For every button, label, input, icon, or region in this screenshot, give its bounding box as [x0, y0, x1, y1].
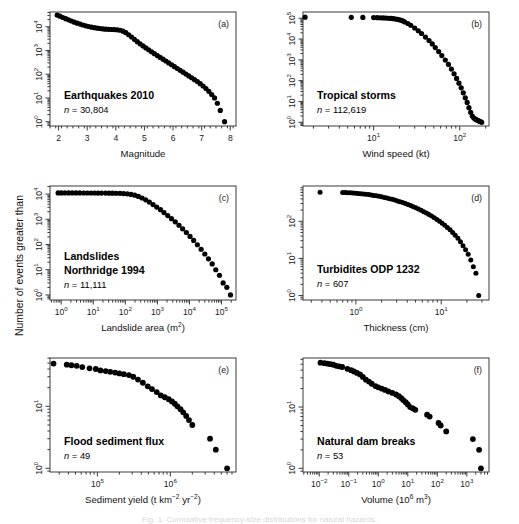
data-point	[132, 193, 137, 198]
data-point	[180, 409, 186, 415]
data-point	[366, 379, 372, 385]
data-point	[351, 369, 357, 375]
x-axis-title: Volume (106 m3)	[361, 493, 431, 505]
panel-c: 100101102103104100101102103104105Landsli…	[0, 0, 519, 524]
x-tick-label: 101	[367, 131, 381, 143]
data-point	[349, 15, 354, 20]
data-point	[458, 239, 463, 244]
data-point	[199, 247, 204, 252]
data-point	[143, 45, 148, 50]
data-point	[434, 217, 439, 222]
panel-annotation-count: n = 607	[317, 278, 349, 289]
data-point	[207, 436, 213, 442]
data-point	[348, 190, 353, 195]
y-tick-label: 104	[32, 20, 44, 34]
data-point	[195, 242, 200, 247]
data-point	[218, 108, 223, 113]
data-point	[387, 196, 392, 201]
data-point	[109, 27, 114, 32]
y-tick-label: 104	[32, 187, 44, 201]
data-point	[399, 18, 404, 23]
data-point	[330, 362, 336, 368]
data-point	[206, 89, 211, 94]
data-point	[69, 18, 74, 23]
data-point	[88, 190, 93, 195]
data-point	[429, 214, 434, 219]
data-point	[410, 406, 416, 412]
panel-canvas: 100101102103104100101102103104105Landsli…	[0, 0, 519, 524]
data-point	[81, 190, 86, 195]
data-point	[117, 191, 122, 196]
data-point	[212, 95, 217, 100]
data-point	[377, 194, 382, 199]
data-point	[465, 100, 470, 105]
y-tick-label: 103	[285, 53, 297, 67]
data-point	[162, 394, 168, 400]
panel-e: 100101105106Sediment yield (t km−2 yr−2)…	[0, 0, 519, 524]
panel-canvas: 1001011021031042345678Magnitude(a)Earthq…	[0, 0, 519, 524]
panel-letter: (e)	[218, 365, 229, 375]
data-point	[139, 195, 144, 200]
data-point	[302, 15, 307, 20]
plot-frame	[50, 358, 236, 472]
data-point	[183, 413, 189, 419]
data-point	[169, 62, 174, 67]
data-point	[55, 13, 60, 18]
panel-annotation-count: n = 53	[317, 450, 343, 461]
data-point	[390, 197, 395, 202]
data-point	[412, 407, 418, 413]
data-point	[466, 105, 471, 110]
data-point	[51, 361, 57, 367]
data-point	[474, 117, 479, 122]
panel-f: 10010110−210−1100101102103Volume (106 m3…	[0, 0, 519, 524]
data-point	[379, 194, 384, 199]
data-point	[405, 21, 410, 26]
data-point	[473, 271, 478, 276]
data-point	[183, 71, 188, 76]
data-point	[446, 62, 451, 67]
data-point	[396, 393, 402, 399]
data-point	[116, 371, 122, 377]
data-point	[426, 38, 431, 43]
x-tick-label: 10−1	[340, 477, 357, 489]
data-points	[55, 13, 228, 125]
data-point	[412, 25, 417, 30]
data-point	[213, 447, 219, 453]
data-point	[140, 380, 146, 386]
data-point	[363, 377, 369, 383]
x-tick-label: 104	[183, 305, 197, 317]
data-point	[384, 15, 389, 20]
data-point	[77, 190, 82, 195]
data-point	[371, 15, 376, 20]
data-point	[340, 190, 345, 195]
data-point	[115, 27, 120, 32]
data-point	[95, 26, 100, 31]
data-point	[178, 68, 183, 73]
x-tick-label: 7	[199, 133, 204, 143]
data-point	[93, 366, 99, 372]
data-point	[416, 207, 421, 212]
data-point	[476, 447, 482, 453]
x-axis-title: Magnitude	[121, 148, 166, 159]
panel-annotation-title: Turbidites ODP 1232	[317, 263, 420, 275]
data-point	[436, 420, 442, 426]
data-point	[89, 25, 94, 30]
y-tick-label: 100	[285, 115, 297, 129]
figure-panel-grid: Number of events greater than 1001011021…	[0, 0, 519, 524]
panel-annotation-title: Flood sediment flux	[64, 435, 164, 447]
data-point	[92, 25, 97, 30]
panel-letter: (a)	[218, 19, 229, 29]
data-point	[213, 267, 218, 272]
panel-letter: (f)	[474, 365, 482, 375]
x-tick-label: 10−2	[311, 477, 328, 489]
data-point	[393, 16, 398, 21]
data-point	[386, 16, 391, 21]
data-point	[56, 190, 61, 195]
panel-annotation-title: Natural dam breaks	[317, 435, 415, 447]
panel-letter: (b)	[471, 19, 482, 29]
data-point	[443, 429, 449, 435]
data-point	[154, 389, 160, 395]
data-point	[158, 207, 163, 212]
data-point	[166, 396, 172, 402]
data-point	[470, 113, 475, 118]
